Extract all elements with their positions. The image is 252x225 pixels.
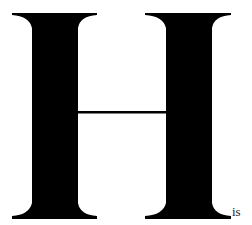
following-text: is (232, 205, 241, 218)
drop-cap-letter-h (0, 0, 252, 225)
